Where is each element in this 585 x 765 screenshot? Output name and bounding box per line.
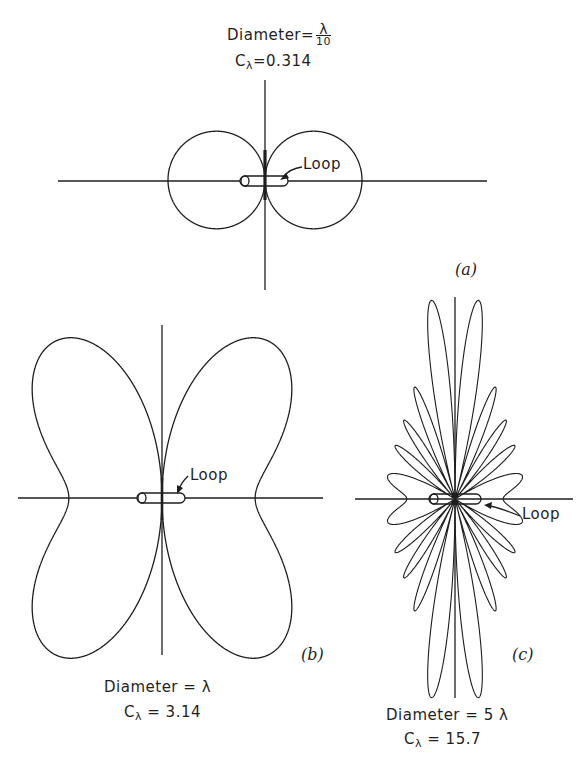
c-symbol: C [404,730,415,748]
c-subscript: λ [415,737,422,750]
panel-a-diameter-label: Diameter=λ10 [227,24,331,47]
panel-b [18,325,323,658]
panel-b-loop-arrow [177,476,188,494]
panel-a-c-label: Cλ=0.314 [235,52,312,72]
c-symbol: C [124,703,135,721]
diameter-text: Diameter [104,678,178,696]
equals-sign: = [183,678,196,696]
diameter-fraction: λ10 [316,24,331,47]
diameter-text: Diameter [227,26,301,44]
diameter-text: Diameter [386,706,460,724]
fraction-denominator: 10 [316,36,331,47]
c-subscript: λ [246,59,253,72]
panel-a-loop-label: Loop [303,155,341,173]
panel-c [355,297,573,698]
panel-c-label: (c) [512,645,533,664]
equals-sign: = [301,26,314,44]
panel-c-loop-label: Loop [522,505,560,523]
panel-c-c-label: Cλ = 15.7 [404,730,481,750]
panel-b-loop-label: Loop [190,466,228,484]
c-value: 3.14 [166,703,201,721]
panel-a-loop-arrow [280,167,302,180]
equals-sign: = [465,706,478,724]
panel-b-label: (b) [301,645,324,664]
panel-b-diameter-label: Diameter = λ [104,678,211,696]
diameter-value: 5 λ [484,706,509,724]
panel-a-loop-icon [240,150,288,200]
c-subscript: λ [135,710,142,723]
panel-b-loop-icon [137,478,185,520]
panel-c-loop-arrow [484,502,520,516]
panel-b-c-label: Cλ = 3.14 [124,703,201,723]
panel-a-label: (a) [455,260,477,279]
c-value: 15.7 [446,730,481,748]
c-symbol: C [235,52,246,70]
panel-c-diameter-label: Diameter = 5 λ [386,706,508,724]
radiation-pattern-figure [0,0,585,765]
c-value: 0.314 [266,52,311,70]
diameter-value: λ [202,678,211,696]
panel-a [58,80,487,290]
